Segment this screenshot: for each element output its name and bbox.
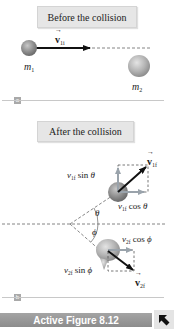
- panel-b-title-text: After the collision: [49, 126, 122, 137]
- velocity-1i-label: v1i: [55, 35, 65, 46]
- v1f-sin-label: v1f sin θ: [67, 171, 95, 181]
- panel-a-separator: [2, 100, 164, 101]
- v1f-arrow: [118, 167, 146, 192]
- ball-m1: [21, 40, 37, 56]
- phi-label: ϕ: [92, 228, 97, 237]
- ball-m2-tail: [100, 258, 108, 270]
- v1f-cos-label: v1f cos θ: [118, 202, 147, 212]
- v2f-label: v2f: [135, 278, 145, 289]
- open-figure-button[interactable]: [154, 310, 174, 329]
- panel-b-title: After the collision: [37, 121, 134, 142]
- mass-2-label: m2: [132, 82, 142, 93]
- v2f-sin-label: v2f sin ϕ: [64, 266, 92, 276]
- mass-1-label: m1: [24, 62, 34, 73]
- ball-m2: [128, 55, 150, 77]
- arrow-up-left-icon: [157, 313, 171, 327]
- v2f-arrow: [108, 251, 133, 270]
- active-figure-caption: Active Figure 8.12: [33, 315, 119, 326]
- active-figure-caption-bar[interactable]: Active Figure 8.12: [0, 313, 152, 327]
- v1f-label: v1f: [147, 157, 157, 168]
- panel-a: [21, 40, 152, 77]
- theta-label: θ: [95, 209, 99, 218]
- v2f-cos-label: v2f cos ϕ: [122, 235, 152, 245]
- panel-b-separator: [2, 297, 164, 298]
